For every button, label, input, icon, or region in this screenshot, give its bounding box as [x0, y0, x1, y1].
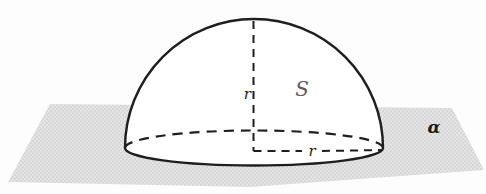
page: { "figure": { "labels": { "apex_radius":…: [0, 0, 486, 194]
vertical-radius-label: r: [244, 85, 252, 103]
horizontal-radius-label: r: [308, 142, 316, 160]
hemisphere-diagram: r r S α: [0, 0, 486, 194]
plane-label: α: [427, 117, 440, 137]
figure-container: r r S α: [0, 0, 486, 194]
surface-label: S: [295, 77, 309, 101]
